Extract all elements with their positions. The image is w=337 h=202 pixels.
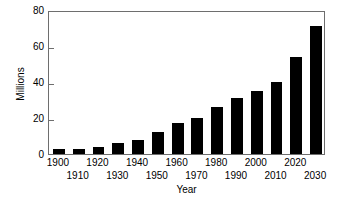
x-axis-tick-label: 1950 [137, 170, 177, 181]
x-axis-tick-label: 1990 [216, 170, 256, 181]
y-axis-tick-label: 40 [18, 78, 44, 88]
bar [73, 149, 85, 154]
x-axis-tick-label: 2020 [275, 157, 315, 168]
y-axis-tick-label: 20 [18, 114, 44, 124]
bar [132, 140, 144, 154]
x-axis-title: Year [48, 184, 325, 196]
bar-series [49, 12, 324, 154]
bar [271, 82, 283, 154]
bar [93, 147, 105, 154]
bar [172, 123, 184, 154]
x-axis-tick-label: 2000 [236, 157, 276, 168]
x-axis-tick-labels: 1900191019201930194019501960197019801990… [0, 155, 337, 185]
y-axis-tick-label: 80 [18, 6, 44, 16]
x-axis-tick-label: 1960 [157, 157, 197, 168]
bar-chart-figure: Millions 020406080 190019101920193019401… [0, 0, 337, 202]
bar [112, 143, 124, 154]
x-axis-tick-label: 1930 [97, 170, 137, 181]
bar [152, 132, 164, 154]
x-axis-tick-label: 1900 [38, 157, 78, 168]
bar [310, 26, 322, 154]
bar [231, 98, 243, 154]
bar [251, 91, 263, 154]
x-axis-tick-label: 1980 [196, 157, 236, 168]
x-axis-tick-label: 1920 [77, 157, 117, 168]
y-axis-tick-label: 60 [18, 42, 44, 52]
x-axis-tick-label: 1940 [117, 157, 157, 168]
bar [211, 107, 223, 154]
bar [290, 57, 302, 154]
bar [53, 149, 65, 154]
x-axis-tick-label: 2030 [295, 170, 335, 181]
plot-area [48, 11, 325, 155]
x-axis-tick-label: 1910 [58, 170, 98, 181]
bar [191, 118, 203, 154]
x-axis-tick-label: 2010 [256, 170, 296, 181]
x-axis-tick-label: 1970 [176, 170, 216, 181]
